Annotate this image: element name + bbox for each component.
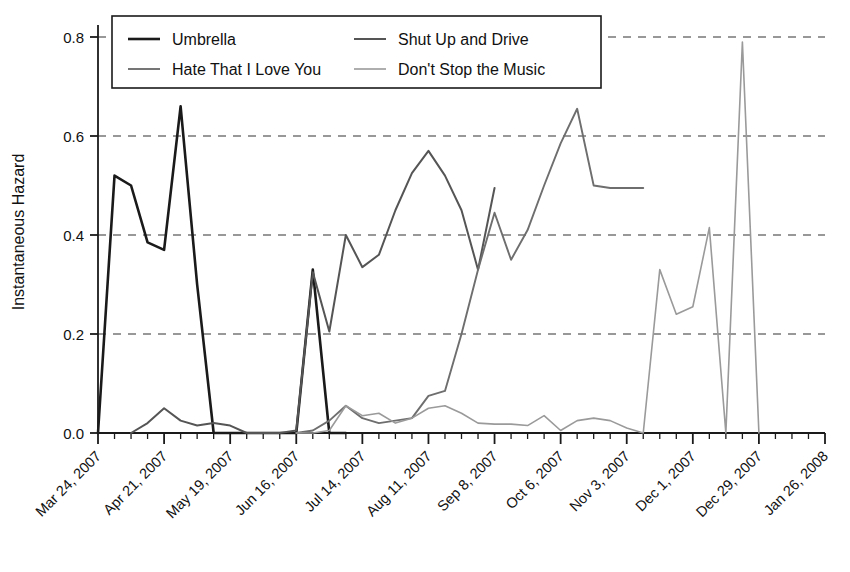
- legend-label: Shut Up and Drive: [398, 31, 529, 48]
- series-line: [131, 151, 495, 433]
- y-tick-label: 0.8: [63, 29, 84, 46]
- chart-legend: UmbrellaShut Up and DriveHate That I Lov…: [112, 16, 601, 88]
- x-tick-label: Jul 14, 2007: [301, 448, 368, 515]
- x-tick-label: Dec 29, 2007: [693, 448, 765, 520]
- x-tick-label: Aug 11, 2007: [363, 448, 435, 520]
- x-tick-label: Mar 24, 2007: [32, 448, 104, 520]
- x-tick-label: Oct 6, 2007: [502, 448, 566, 512]
- y-tick-label: 0.0: [63, 425, 84, 442]
- y-axis-group: 0.00.20.40.60.8: [63, 25, 98, 442]
- data-series-group: [98, 42, 759, 433]
- x-tick-label: Dec 1, 2007: [632, 448, 699, 515]
- chart-canvas: 0.00.20.40.60.8 Mar 24, 2007Apr 21, 2007…: [0, 0, 850, 572]
- legend-label: Don't Stop the Music: [398, 61, 545, 78]
- series-line: [296, 42, 759, 433]
- hazard-chart-figure: 0.00.20.40.60.8 Mar 24, 2007Apr 21, 2007…: [0, 0, 850, 572]
- legend-label: Hate That I Love You: [172, 61, 321, 78]
- x-tick-label: Jan 26, 2008: [761, 448, 832, 519]
- series-line: [296, 109, 643, 433]
- y-tick-label: 0.6: [63, 128, 84, 145]
- series-line: [98, 106, 346, 433]
- x-tick-label: Apr 21, 2007: [100, 448, 170, 518]
- y-axis-label: Instantaneous Hazard: [10, 154, 27, 311]
- x-tick-label: Sep 8, 2007: [434, 448, 501, 515]
- x-tick-label: Jun 16, 2007: [232, 448, 303, 519]
- y-tick-label: 0.2: [63, 326, 84, 343]
- y-tick-label: 0.4: [63, 227, 84, 244]
- x-tick-label: May 19, 2007: [163, 448, 236, 521]
- legend-label: Umbrella: [172, 31, 236, 48]
- x-axis-group: Mar 24, 2007Apr 21, 2007May 19, 2007Jun …: [32, 433, 831, 521]
- x-tick-label: Nov 3, 2007: [566, 448, 633, 515]
